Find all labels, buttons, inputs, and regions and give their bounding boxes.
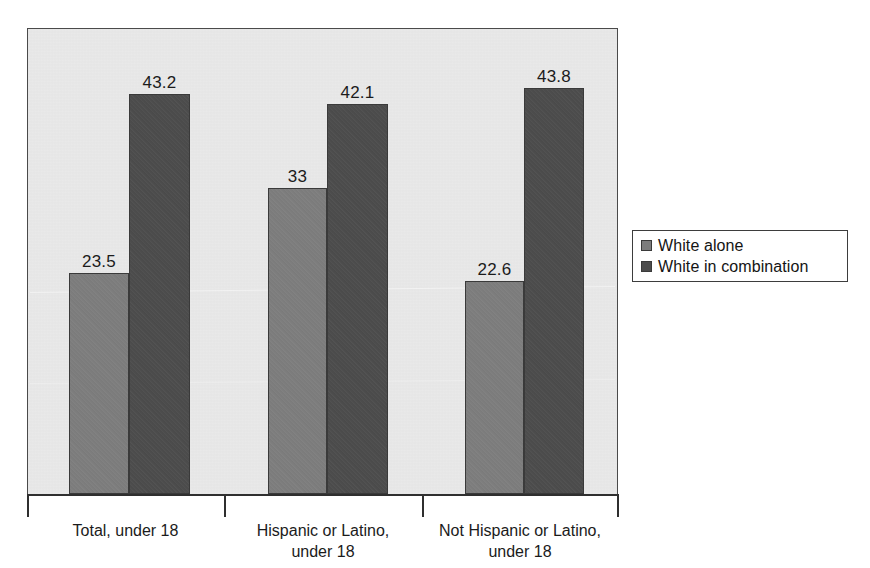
bar-texture (525, 89, 583, 493)
value-label-hispanic-or-latino-under-18-white-alone: 33 (268, 167, 327, 187)
legend-swatch-white-alone-icon (641, 240, 652, 251)
bar-texture (466, 282, 523, 493)
value-label-hispanic-or-latino-under-18-white-in-combination: 42.1 (327, 83, 388, 103)
x-axis-tick (224, 495, 226, 517)
legend-label-white-alone: White alone (658, 237, 744, 255)
bar-texture (328, 105, 387, 493)
legend-item-white-in-combination[interactable]: White in combination (641, 256, 840, 277)
bar-hispanic-or-latino-under-18-white-in-combination[interactable] (327, 104, 388, 494)
bar-texture (269, 189, 326, 493)
plot-area: 23.5 43.2 33 42.1 22.6 43.8 (27, 28, 618, 495)
legend-swatch-white-in-combination-icon (641, 261, 652, 272)
x-axis-tick (422, 495, 424, 517)
value-label-not-hispanic-or-latino-under-18-white-alone: 22.6 (465, 260, 524, 280)
bar-texture (70, 274, 128, 493)
x-axis-label-total-under-18: Total, under 18 (27, 520, 224, 541)
value-label-not-hispanic-or-latino-under-18-white-in-combination: 43.8 (524, 67, 584, 87)
bar-hispanic-or-latino-under-18-white-alone[interactable] (268, 188, 327, 494)
x-axis-label-not-hispanic-or-latino-under-18: Not Hispanic or Latino, under 18 (422, 520, 618, 562)
x-axis-tick (27, 495, 29, 517)
bar-not-hispanic-or-latino-under-18-white-alone[interactable] (465, 281, 524, 494)
x-axis-baseline (27, 494, 619, 496)
value-label-total-under-18-white-in-combination: 43.2 (129, 73, 190, 93)
bar-total-under-18-white-alone[interactable] (69, 273, 129, 494)
legend-item-white-alone[interactable]: White alone (641, 235, 840, 256)
value-label-total-under-18-white-alone: 23.5 (69, 252, 129, 272)
legend-label-white-in-combination: White in combination (658, 258, 809, 276)
bar-total-under-18-white-in-combination[interactable] (129, 94, 190, 494)
x-axis-label-hispanic-or-latino-under-18: Hispanic or Latino, under 18 (224, 520, 422, 562)
bar-chart: 23.5 43.2 33 42.1 22.6 43.8 Total, under… (0, 0, 870, 568)
bar-texture (130, 95, 189, 493)
bar-not-hispanic-or-latino-under-18-white-in-combination[interactable] (524, 88, 584, 494)
x-axis-tick (617, 495, 619, 517)
legend: White alone White in combination (632, 230, 848, 282)
